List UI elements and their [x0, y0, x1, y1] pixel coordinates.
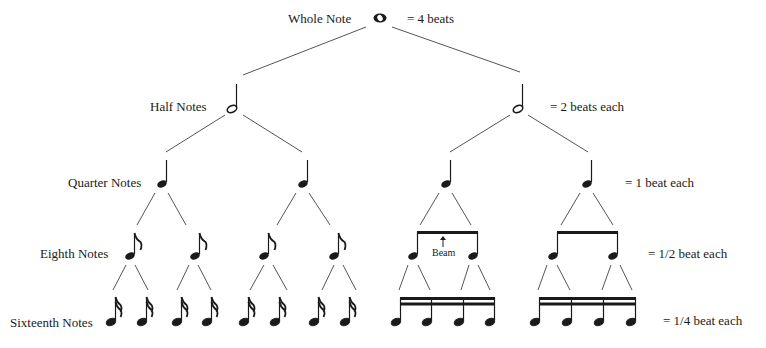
sixteenth-note-icon: [269, 297, 285, 327]
sixteenth-note-icon: [238, 297, 254, 327]
eighth-note-icon: [258, 233, 275, 261]
quarter-note-icon: [581, 160, 593, 189]
whole-note-icon: [374, 14, 387, 23]
sixteenth-note-icon: [171, 297, 187, 327]
beam: [417, 231, 478, 234]
quarter-note-icon: [297, 160, 309, 189]
sixteenth-note-icon: [136, 297, 152, 327]
beamed-eighth-pair-icon: [547, 231, 619, 261]
eighth-note-icon: [189, 233, 206, 261]
sixteenth-note-icon: [308, 297, 324, 327]
sixteenth-note-icon: [201, 297, 217, 327]
eighth-note-icon: [328, 233, 345, 261]
quarter-note-icon: [156, 160, 168, 189]
beamed-sixteenth-group-icon: [529, 297, 637, 327]
beam-arrow-icon: [440, 236, 446, 247]
sixteenth-note-icon: [105, 297, 121, 327]
half-note-icon: [226, 84, 238, 114]
beamed-sixteenth-group-icon: [390, 297, 496, 327]
sixteenth-note-icon: [339, 297, 355, 327]
eighth-note-icon: [124, 233, 141, 261]
half-note-icon: [512, 84, 524, 114]
quarter-note-icon: [440, 160, 452, 189]
tree-connectors: [113, 27, 632, 290]
note-tree: [0, 0, 766, 348]
